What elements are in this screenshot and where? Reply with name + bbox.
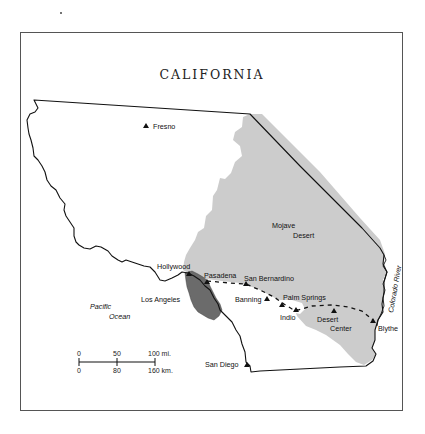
- label-banning: Banning: [235, 295, 261, 304]
- label-desert-center-2: Center: [330, 324, 352, 333]
- banning-marker[interactable]: [264, 296, 270, 301]
- scale-mi-100: 100 mi.: [148, 350, 171, 357]
- label-mojave-1: Mojave: [272, 221, 295, 230]
- label-palm-springs: Palm Springs: [283, 293, 326, 302]
- label-san-diego: San Diego: [205, 360, 239, 369]
- label-indio: Indio: [280, 313, 296, 322]
- label-hollywood: Hollywood: [157, 262, 190, 271]
- scale-mi-0: 0: [77, 350, 81, 357]
- label-colorado-river: Colorado River: [386, 264, 403, 313]
- label-ocean: Ocean: [109, 312, 130, 321]
- label-blythe: Blythe: [378, 324, 398, 333]
- label-pacific: Pacific: [90, 302, 112, 311]
- label-pasadena: Pasadena: [204, 271, 236, 280]
- map-title: CALIFORNIA: [159, 67, 264, 82]
- mojave-desert-region: [183, 114, 387, 365]
- label-san-bernardino: San Bernardino: [244, 274, 294, 283]
- label-fresno: Fresno: [153, 122, 175, 131]
- scale-bar: 0 50 100 mi. 0 80 160 km.: [77, 350, 173, 374]
- scale-km-0: 0: [77, 367, 81, 374]
- label-mojave-2: Desert: [293, 231, 314, 240]
- scale-km-160: 160 km.: [148, 367, 173, 374]
- label-desert-center-1: Desert: [317, 315, 338, 324]
- california-map: CALIFORNIA Fresno Hollywood Pasadena San…: [0, 0, 425, 434]
- scale-mi-50: 50: [113, 350, 121, 357]
- scale-km-80: 80: [113, 367, 121, 374]
- label-los-angeles: Los Angeles: [141, 295, 181, 304]
- fresno-marker[interactable]: [143, 123, 149, 128]
